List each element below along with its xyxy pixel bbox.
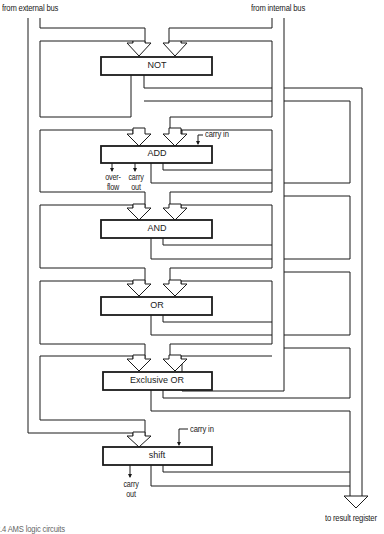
add-right-loop	[170, 130, 272, 207]
add-input-arrows	[127, 128, 187, 146]
shift-output-b	[151, 465, 350, 486]
and-left-loop	[40, 205, 145, 283]
not-input-arrows	[127, 41, 187, 56]
shift-carry-out-arrow-icon	[128, 474, 132, 478]
and-right-loop	[170, 205, 272, 283]
result-bus-inner-line	[284, 101, 350, 496]
add-carry-out-label: carry out	[127, 172, 146, 192]
or-left-loop	[40, 281, 145, 358]
xor-output-b	[151, 390, 350, 411]
or-right-loop	[170, 281, 272, 358]
not-output-a	[144, 75, 272, 88]
figure-caption: 2.4 AMS logic circuits	[0, 524, 65, 534]
shift-output-a	[163, 465, 350, 472]
shift-block-label: shift	[101, 450, 213, 460]
and-output-a	[163, 238, 272, 245]
or-output-b	[151, 315, 272, 335]
shift-carry-in-arrow-icon	[177, 442, 181, 446]
shift-carry-in-label: carry in	[190, 424, 214, 434]
external-bus-label: from external bus	[2, 3, 58, 13]
add-carry-in-label: carry in	[205, 129, 229, 139]
xor-right-loop	[181, 356, 272, 359]
shift-input-arrow	[127, 432, 151, 447]
xor-left-loop	[40, 356, 145, 436]
internal-bus-label: from internal bus	[251, 3, 305, 13]
not-left-loop	[40, 41, 133, 117]
internal-bus-inner-line	[169, 18, 272, 43]
or-output-a	[163, 315, 272, 322]
or-block-label: OR	[101, 300, 213, 310]
result-arrow-icon	[344, 496, 368, 508]
shift-carry-out-label: carry out	[122, 479, 141, 499]
add-output-a	[163, 163, 272, 170]
and-block-label: AND	[101, 223, 213, 233]
not-block-label: NOT	[101, 60, 213, 70]
xor-input-arrows	[127, 355, 187, 371]
add-overflow-label: over- flow	[103, 172, 123, 192]
or-input-arrows	[127, 280, 187, 296]
and-input-arrows	[127, 204, 187, 220]
external-bus-inner-line	[40, 18, 145, 43]
add-block-label: ADD	[101, 148, 213, 158]
add-left-loop	[40, 130, 145, 207]
add-carry-in-arrow-icon	[196, 141, 200, 145]
result-register-label: to result register	[325, 513, 377, 523]
and-output-b	[151, 238, 272, 259]
xor-block-label: Exclusive OR	[101, 375, 213, 385]
add-output-b	[151, 163, 272, 183]
